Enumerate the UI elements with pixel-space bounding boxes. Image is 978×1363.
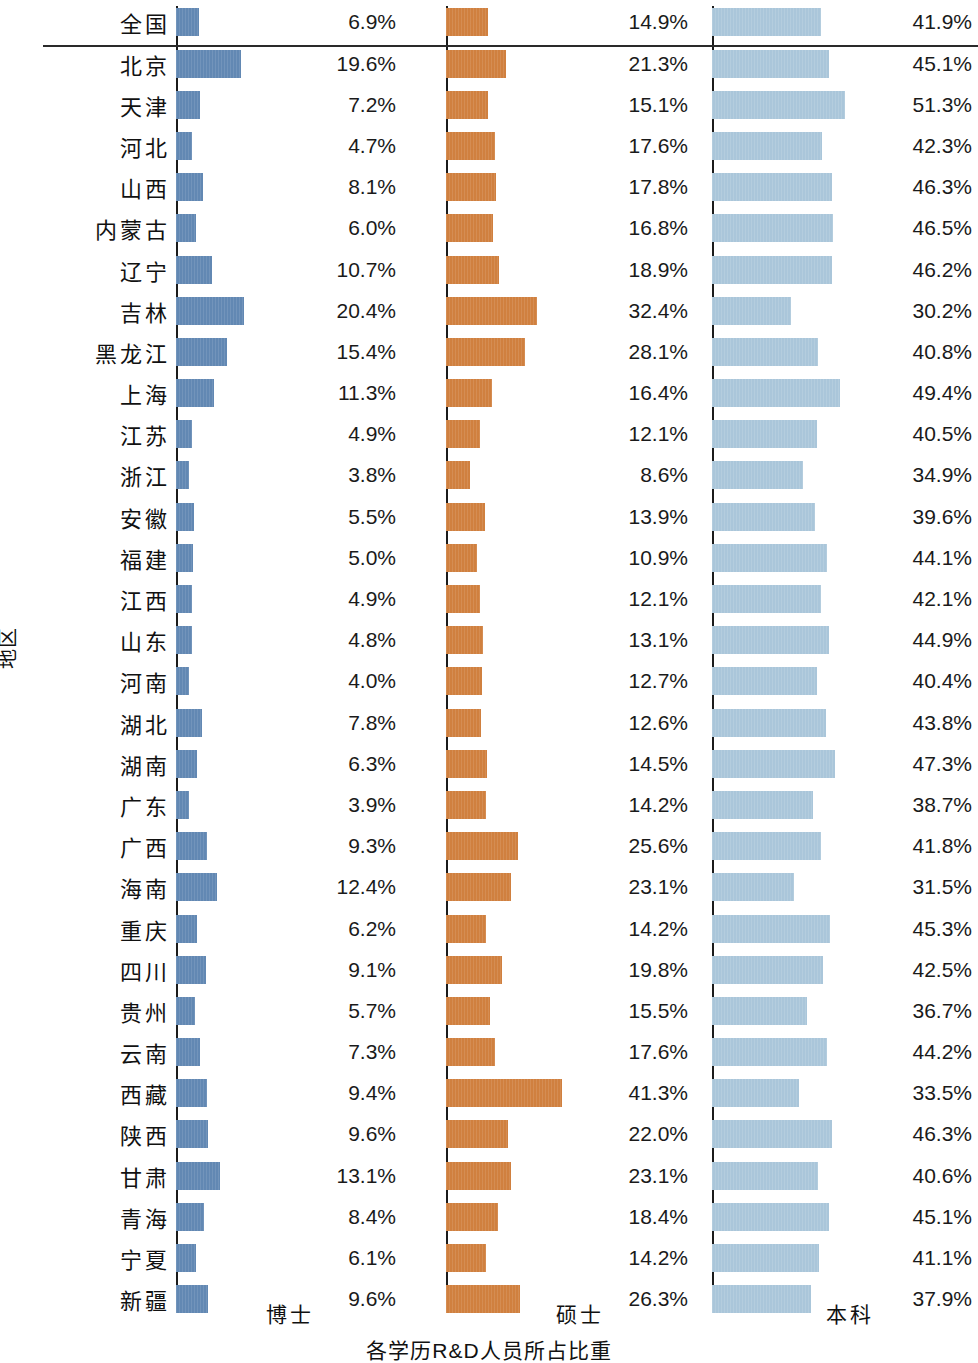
bar-doctor bbox=[176, 544, 193, 572]
panel-caption-doctor: 博士 bbox=[230, 1298, 350, 1328]
bar-master bbox=[446, 997, 490, 1025]
bar-bachelor bbox=[712, 750, 835, 778]
value-label-doctor: 4.0% bbox=[280, 661, 396, 702]
category-label: 广西 bbox=[40, 826, 170, 867]
bar-doctor bbox=[176, 1120, 208, 1148]
chart-row: 山东4.8%13.1%44.9% bbox=[0, 620, 978, 661]
bar-bachelor bbox=[712, 420, 817, 448]
panel-master: 21.3% bbox=[446, 43, 692, 84]
category-label: 甘肃 bbox=[40, 1155, 170, 1196]
panel-doctor: 20.4% bbox=[176, 290, 400, 331]
bar-master bbox=[446, 256, 499, 284]
panel-doctor: 4.0% bbox=[176, 661, 400, 702]
bar-master bbox=[446, 1244, 486, 1272]
panel-caption-master: 硕士 bbox=[520, 1298, 640, 1328]
panel-captions: 博士 硕士 本科 bbox=[0, 1298, 978, 1332]
panel-master: 13.1% bbox=[446, 620, 692, 661]
panel-bachelor: 40.6% bbox=[712, 1155, 974, 1196]
bar-bachelor bbox=[712, 256, 832, 284]
bar-master bbox=[446, 832, 518, 860]
value-label-doctor: 3.9% bbox=[280, 784, 396, 825]
panel-master: 15.5% bbox=[446, 990, 692, 1031]
panel-doctor: 7.8% bbox=[176, 702, 400, 743]
panel-doctor: 11.3% bbox=[176, 373, 400, 414]
category-label: 江苏 bbox=[40, 414, 170, 455]
category-label: 内蒙古 bbox=[40, 208, 170, 249]
panel-master: 25.6% bbox=[446, 826, 692, 867]
value-label-bachelor: 45.1% bbox=[844, 1196, 972, 1237]
category-label: 吉林 bbox=[40, 290, 170, 331]
bar-doctor bbox=[176, 173, 203, 201]
category-label: 辽宁 bbox=[40, 249, 170, 290]
value-label-doctor: 6.2% bbox=[280, 908, 396, 949]
value-label-master: 12.1% bbox=[564, 578, 688, 619]
value-label-doctor: 20.4% bbox=[280, 290, 396, 331]
bar-doctor bbox=[176, 585, 192, 613]
value-label-bachelor: 41.8% bbox=[844, 826, 972, 867]
panel-bachelor: 40.5% bbox=[712, 414, 974, 455]
bar-bachelor bbox=[712, 1244, 819, 1272]
value-label-master: 14.9% bbox=[564, 0, 688, 43]
chart-row: 西藏9.4%41.3%33.5% bbox=[0, 1073, 978, 1114]
panel-master: 12.6% bbox=[446, 702, 692, 743]
category-label: 西藏 bbox=[40, 1073, 170, 1114]
value-label-doctor: 7.8% bbox=[280, 702, 396, 743]
bar-bachelor bbox=[712, 8, 821, 36]
value-label-master: 19.8% bbox=[564, 949, 688, 990]
bar-master bbox=[446, 379, 492, 407]
bar-bachelor bbox=[712, 626, 829, 654]
chart-row: 辽宁10.7%18.9%46.2% bbox=[0, 249, 978, 290]
panel-bachelor: 44.1% bbox=[712, 537, 974, 578]
value-label-bachelor: 46.3% bbox=[844, 1114, 972, 1155]
panel-doctor: 15.4% bbox=[176, 331, 400, 372]
bar-master bbox=[446, 667, 482, 695]
value-label-master: 25.6% bbox=[564, 826, 688, 867]
value-label-bachelor: 39.6% bbox=[844, 496, 972, 537]
bar-master bbox=[446, 461, 470, 489]
panel-doctor: 8.1% bbox=[176, 167, 400, 208]
bar-doctor bbox=[176, 338, 227, 366]
bar-master bbox=[446, 709, 481, 737]
chart-row: 北京19.6%21.3%45.1% bbox=[0, 43, 978, 84]
bar-bachelor bbox=[712, 1120, 832, 1148]
panel-master: 12.1% bbox=[446, 414, 692, 455]
bar-master bbox=[446, 503, 485, 531]
value-label-bachelor: 34.9% bbox=[844, 455, 972, 496]
chart-rows: 全国6.9%14.9%41.9%北京19.6%21.3%45.1%天津7.2%1… bbox=[0, 0, 978, 1320]
panel-master: 8.6% bbox=[446, 455, 692, 496]
panel-bachelor: 47.3% bbox=[712, 743, 974, 784]
chart-row: 广西9.3%25.6%41.8% bbox=[0, 826, 978, 867]
value-label-bachelor: 33.5% bbox=[844, 1073, 972, 1114]
bar-master bbox=[446, 1038, 495, 1066]
value-label-doctor: 6.0% bbox=[280, 208, 396, 249]
value-label-doctor: 9.6% bbox=[280, 1114, 396, 1155]
panel-bachelor: 46.3% bbox=[712, 1114, 974, 1155]
value-label-doctor: 15.4% bbox=[280, 331, 396, 372]
panel-bachelor: 40.4% bbox=[712, 661, 974, 702]
category-label: 陕西 bbox=[40, 1114, 170, 1155]
chart-row: 宁夏6.1%14.2%41.1% bbox=[0, 1237, 978, 1278]
panel-master: 14.2% bbox=[446, 784, 692, 825]
category-label: 天津 bbox=[40, 84, 170, 125]
chart-row: 青海8.4%18.4%45.1% bbox=[0, 1196, 978, 1237]
bar-bachelor bbox=[712, 1079, 799, 1107]
bar-master bbox=[446, 544, 477, 572]
bar-bachelor bbox=[712, 544, 827, 572]
value-label-bachelor: 49.4% bbox=[844, 373, 972, 414]
bar-doctor bbox=[176, 832, 207, 860]
panel-bachelor: 34.9% bbox=[712, 455, 974, 496]
panel-master: 28.1% bbox=[446, 331, 692, 372]
value-label-master: 23.1% bbox=[564, 1155, 688, 1196]
chart-row: 四川9.1%19.8%42.5% bbox=[0, 949, 978, 990]
category-label: 北京 bbox=[40, 43, 170, 84]
value-label-master: 16.8% bbox=[564, 208, 688, 249]
chart-row: 江西4.9%12.1%42.1% bbox=[0, 578, 978, 619]
panel-master: 16.8% bbox=[446, 208, 692, 249]
panel-doctor: 5.5% bbox=[176, 496, 400, 537]
panel-caption-bachelor: 本科 bbox=[790, 1298, 910, 1328]
value-label-doctor: 7.2% bbox=[280, 84, 396, 125]
panel-master: 17.8% bbox=[446, 167, 692, 208]
value-label-bachelor: 51.3% bbox=[844, 84, 972, 125]
bar-bachelor bbox=[712, 667, 817, 695]
value-label-doctor: 4.7% bbox=[280, 125, 396, 166]
